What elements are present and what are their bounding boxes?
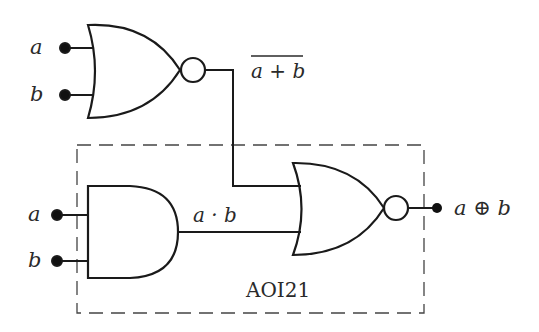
and-gate: [88, 186, 178, 278]
label-input-a-bottom: a: [28, 202, 41, 226]
nor-gate-output: [293, 163, 408, 255]
bottom-inputs: [52, 210, 88, 266]
input-terminal-a: [60, 43, 70, 53]
label-input-b-top: b: [30, 82, 43, 106]
label-final-output: a ⊕ b: [454, 196, 511, 220]
label-nor1-output: a + b: [251, 59, 305, 83]
top-inputs: [60, 43, 93, 100]
output-terminal: [432, 203, 442, 213]
inversion-bubble: [181, 58, 205, 82]
input-terminal-a2: [52, 210, 62, 220]
label-input-a-top: a: [30, 35, 43, 59]
label-input-b-bottom: b: [28, 248, 41, 272]
wire-nor1-to-nor2: [205, 70, 301, 186]
input-terminal-b2: [52, 256, 62, 266]
input-terminal-b: [60, 90, 70, 100]
logic-diagram: a b a b a + b a · b a ⊕ b AOI21: [0, 0, 539, 332]
nor-gate-top: [88, 25, 205, 118]
label-and-output: a · b: [193, 203, 237, 227]
label-block: AOI21: [245, 278, 310, 302]
inversion-bubble-2: [384, 196, 408, 220]
